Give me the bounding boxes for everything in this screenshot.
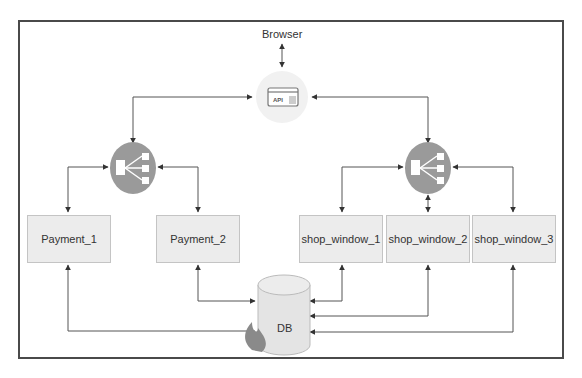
database-label: DB	[277, 322, 292, 334]
service-payment-1[interactable]: Payment_1	[27, 215, 111, 263]
api-gateway-icon[interactable]: API	[256, 71, 308, 123]
service-shop-window-1[interactable]: shop_window_1	[299, 215, 383, 263]
browser-label: Browser	[262, 28, 302, 40]
load-balancer-icon[interactable]	[110, 142, 156, 194]
service-payment-2[interactable]: Payment_2	[156, 215, 240, 263]
load-balancer-icon[interactable]	[405, 142, 451, 194]
svg-text:API: API	[273, 97, 283, 103]
service-shop-window-3[interactable]: shop_window_3	[472, 215, 556, 263]
service-shop-window-2[interactable]: shop_window_2	[386, 215, 470, 263]
database-icon[interactable]	[245, 275, 310, 355]
